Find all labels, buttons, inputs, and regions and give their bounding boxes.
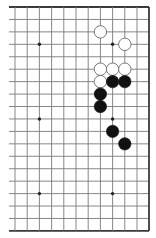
go-board	[0, 0, 156, 238]
star-point	[38, 192, 41, 195]
black-stone	[119, 138, 131, 150]
white-stone	[106, 63, 118, 75]
star-point	[111, 192, 114, 195]
star-point	[111, 117, 114, 120]
white-stone	[94, 75, 106, 87]
white-stone	[119, 63, 131, 75]
star-point	[38, 43, 41, 46]
star-point	[111, 43, 114, 46]
black-stone	[106, 75, 118, 87]
star-point	[38, 117, 41, 120]
black-stone	[94, 88, 106, 100]
black-stone	[106, 125, 118, 137]
white-stone	[94, 26, 106, 38]
black-stone	[94, 100, 106, 112]
white-stone	[94, 63, 106, 75]
black-stone	[119, 75, 131, 87]
white-stone	[119, 38, 131, 50]
